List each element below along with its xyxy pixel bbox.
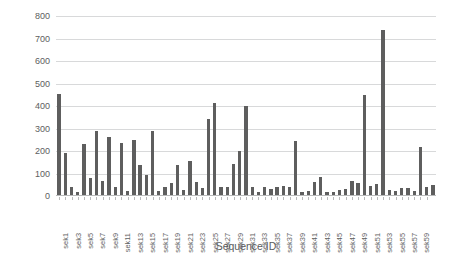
x-axis-tick-mark [84,197,85,200]
bar[interactable] [195,182,198,196]
x-axis-tick-mark [146,197,147,200]
x-axis-tick-mark [109,197,110,200]
x-axis-tick-mark [396,197,397,200]
x-axis-title: Sequence ID [56,239,436,253]
x-axis-tick-mark [277,197,278,200]
x-axis-tick-mark [258,197,259,200]
x-axis-tick-mark [177,197,178,200]
x-axis-tick-mark [290,197,291,200]
x-axis-tick-mark [302,197,303,200]
bar[interactable] [95,131,98,196]
x-axis-tick-mark [128,197,129,200]
bar[interactable] [57,94,60,196]
x-axis-tick-mark [121,197,122,200]
x-axis-tick-mark [196,197,197,200]
bar[interactable] [145,175,148,196]
bar[interactable] [419,147,422,196]
bar[interactable] [313,182,316,196]
bar[interactable] [107,137,110,196]
x-axis-tick-mark [383,197,384,200]
bar[interactable] [381,30,384,196]
x-axis-tick-mark [339,197,340,200]
x-axis-tick-mark [140,197,141,200]
x-axis-tick-mark [190,197,191,200]
bar[interactable] [101,181,104,196]
bar[interactable] [213,103,216,196]
y-axis-tick: 100 [22,169,50,179]
bar[interactable] [244,106,247,196]
x-axis-tick-mark [308,197,309,200]
x-axis-tick-labels: sek1sek3sek5sek7sek9sek11sek13sek15sek17… [56,197,436,237]
x-axis-tick-mark [427,197,428,200]
bar[interactable] [207,119,210,196]
bar[interactable] [120,143,123,196]
bar[interactable] [138,165,141,196]
x-axis-tick-mark [271,197,272,200]
plot-area [56,16,436,196]
y-axis-tick: 600 [22,56,50,66]
x-axis-tick-mark [227,197,228,200]
x-axis-tick-mark [420,197,421,200]
x-axis-tick-mark [389,197,390,200]
x-axis-tick-mark [59,197,60,200]
bar[interactable] [232,164,235,196]
y-axis-tick: 300 [22,124,50,134]
bar[interactable] [132,140,135,196]
x-axis-tick-mark [333,197,334,200]
x-axis-tick-mark [171,197,172,200]
y-axis-tick: 500 [22,79,50,89]
x-axis-tick-mark [246,197,247,200]
x-axis-tick-mark [153,197,154,200]
y-axis-tick: 200 [22,146,50,156]
x-axis-line [56,195,436,196]
x-axis-tick-mark [315,197,316,200]
x-axis-tick-mark [165,197,166,200]
x-axis-tick-mark [234,197,235,200]
bar[interactable] [356,183,359,197]
x-axis-tick-mark [364,197,365,200]
x-axis-tick-mark [240,197,241,200]
x-axis-tick-mark [283,197,284,200]
y-axis-tick-labels: 0100200300400500600700800 [22,10,50,202]
x-axis-tick-mark [221,197,222,200]
x-axis-tick-mark [159,197,160,200]
x-axis-tick-mark [327,197,328,200]
x-axis-tick-mark [377,197,378,200]
bar[interactable] [363,95,366,196]
bar[interactable] [151,131,154,196]
x-axis-tick-mark [252,197,253,200]
bar[interactable] [319,177,322,196]
bar[interactable] [64,153,67,196]
x-axis-tick-mark [265,197,266,200]
x-axis-tick-mark [296,197,297,200]
x-axis-tick-mark [134,197,135,200]
y-axis-tick: 800 [22,11,50,21]
x-axis-tick-mark [358,197,359,200]
y-axis-tick: 400 [22,101,50,111]
bar[interactable] [294,141,297,196]
x-axis-tick-mark [215,197,216,200]
x-axis-tick-mark [78,197,79,200]
bar-series [56,16,436,196]
bar[interactable] [89,178,92,196]
x-axis-tick-mark [202,197,203,200]
bar[interactable] [176,165,179,196]
x-axis-tick-mark [72,197,73,200]
y-axis-tick: 700 [22,34,50,44]
bar[interactable] [188,161,191,196]
x-axis-tick-mark [115,197,116,200]
x-axis-tick-mark [90,197,91,200]
x-axis-tick-mark [371,197,372,200]
x-axis-tick-mark [414,197,415,200]
bar[interactable] [350,181,353,196]
x-axis-tick-mark [96,197,97,200]
y-axis-tick: 0 [22,191,50,201]
x-axis-tick-mark [209,197,210,200]
x-axis-tick-mark [408,197,409,200]
bar[interactable] [82,144,85,196]
bar-chart: Processing time [seconds] 01002003004005… [0,0,449,262]
x-axis-tick-mark [184,197,185,200]
bar[interactable] [238,151,241,196]
x-axis-tick-mark [103,197,104,200]
x-axis-tick-mark [402,197,403,200]
